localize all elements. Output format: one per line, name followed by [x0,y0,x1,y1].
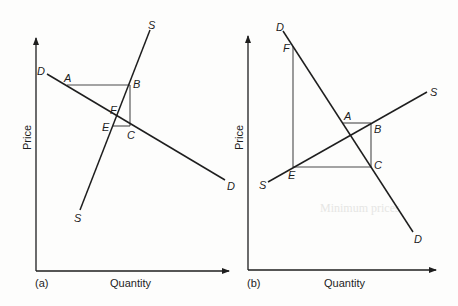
point-a-label-a: A [63,72,71,84]
point-f-label-b: F [283,42,291,54]
demand-label-bottom-a: D [227,180,235,192]
demand-label-bottom-b: D [414,233,422,245]
supply-demand-figure: Minimum prices D D S S A B F E C [0,0,458,306]
panel-label-b: (b) [247,277,260,289]
y-axis-label-a: Price [21,125,33,150]
demand-label-top-b: D [276,21,284,33]
panel-b: D D S S F A B C E Price Quantity (b) [233,21,438,289]
point-e-label-b: E [288,169,296,181]
supply-label-top-b: S [430,86,438,98]
point-e-label-a: E [102,121,110,133]
ghost-text: Minimum prices [320,201,400,215]
demand-label-top-a: D [37,65,45,77]
panel-label-a: (a) [35,277,48,289]
supply-curve-a [80,30,150,210]
supply-label-bottom-b: S [259,179,267,191]
supply-label-bottom-a: S [74,212,82,224]
y-axis-label-b: Price [233,125,245,150]
point-b-label-a: B [133,78,140,90]
x-axis-label-b: Quantity [324,277,365,289]
panel-a: D D S S A B F E C Price Quantity (a) [21,19,235,289]
x-axis-label-a: Quantity [110,277,151,289]
point-a-label-b: A [343,110,351,122]
supply-label-top-a: S [148,19,156,31]
point-c-label-b: C [374,159,382,171]
point-b-label-b: B [374,123,381,135]
point-c-label-a: C [127,129,135,141]
